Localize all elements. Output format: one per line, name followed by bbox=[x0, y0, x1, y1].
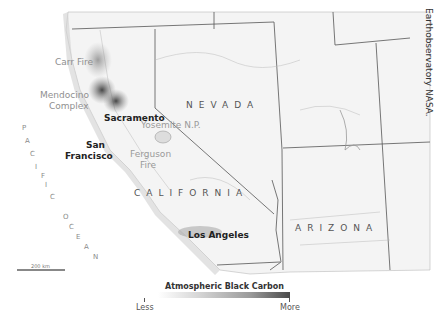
pacific-letter: P bbox=[22, 124, 26, 132]
mendocino-label-2: Complex bbox=[49, 102, 88, 111]
pacific-letter: I bbox=[35, 163, 37, 171]
yosemite-label: Yosemite N.P. bbox=[141, 121, 201, 130]
ocean-letter: O bbox=[63, 213, 69, 221]
ferguson-label-2: Fire bbox=[140, 161, 156, 170]
pacific-letter: C bbox=[30, 150, 35, 158]
ocean-letter: N bbox=[93, 253, 98, 261]
legend-gradient bbox=[158, 292, 290, 298]
francisco-label: Francisco bbox=[65, 152, 113, 161]
carr-fire-label: Carr Fire bbox=[55, 58, 93, 67]
ocean-letter: E bbox=[76, 233, 80, 241]
arizona-label: ARIZONA bbox=[295, 224, 378, 233]
ocean-letter: C bbox=[69, 223, 74, 231]
nevada-label: NEVADA bbox=[186, 101, 259, 110]
california-label: CALIFORNIA bbox=[134, 189, 248, 198]
ferguson-label-1: Ferguson bbox=[130, 150, 171, 159]
ocean-letter: A bbox=[84, 243, 89, 251]
legend-title: Atmospheric Black Carbon bbox=[165, 282, 284, 291]
san-label: San bbox=[86, 141, 105, 150]
image-credit: Earthobservatory NASA. bbox=[424, 8, 434, 117]
legend-max-tick bbox=[289, 298, 290, 302]
scale-bar bbox=[17, 269, 65, 271]
mendocino-label-1: Mendocino bbox=[40, 91, 89, 100]
pacific-letter: F bbox=[41, 172, 45, 180]
legend-min-label: Less bbox=[136, 303, 154, 312]
legend-min-tick bbox=[144, 298, 145, 302]
pacific-letter: C bbox=[50, 193, 55, 201]
pacific-letter: A bbox=[25, 137, 30, 145]
pacific-letter: I bbox=[45, 181, 47, 189]
legend-max-label: More bbox=[280, 303, 300, 312]
los-angeles-label: Los Angeles bbox=[188, 231, 249, 240]
